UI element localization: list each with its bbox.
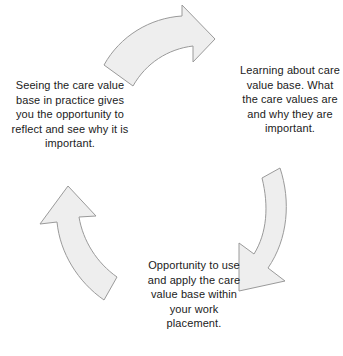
stage-label-apply: Opportunity to use and apply the care va…	[141, 258, 247, 331]
cycle-diagram: Learning about care value base. What the…	[0, 0, 343, 356]
top-arrow-icon	[104, 5, 215, 86]
stage-label-reflect: Seeing the care value base in practice g…	[6, 78, 134, 151]
bottom-left-arrow-icon	[40, 186, 117, 300]
stage-label-learning: Learning about care value base. What the…	[238, 63, 342, 136]
